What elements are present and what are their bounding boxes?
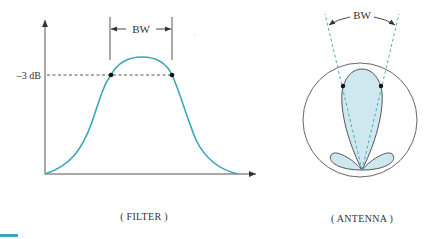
antenna-caption: ( ANTENNA ) xyxy=(331,213,393,225)
antenna-bw-label: BW xyxy=(353,9,371,21)
antenna-half-power-point-left xyxy=(341,84,345,88)
minus-3db-label: –3 dB xyxy=(16,70,42,81)
filter-panel: –3 dB BW xyxy=(16,17,256,174)
bw-arc-right xyxy=(374,17,395,25)
antenna-panel: BW xyxy=(303,9,417,177)
antenna-half-power-point-right xyxy=(379,84,383,88)
antenna-main-lobe xyxy=(342,69,382,170)
page-accent-mark xyxy=(0,234,18,237)
filter-caption: ( FILTER ) xyxy=(120,211,168,223)
bw-arc-left xyxy=(329,17,350,25)
filter-half-power-point-left xyxy=(109,73,114,78)
filter-bw-label: BW xyxy=(132,23,150,35)
diagram-canvas: –3 dB BW ( FILTER ) B xyxy=(0,0,430,239)
filter-half-power-point-right xyxy=(170,73,175,78)
stray-dot xyxy=(194,34,195,35)
